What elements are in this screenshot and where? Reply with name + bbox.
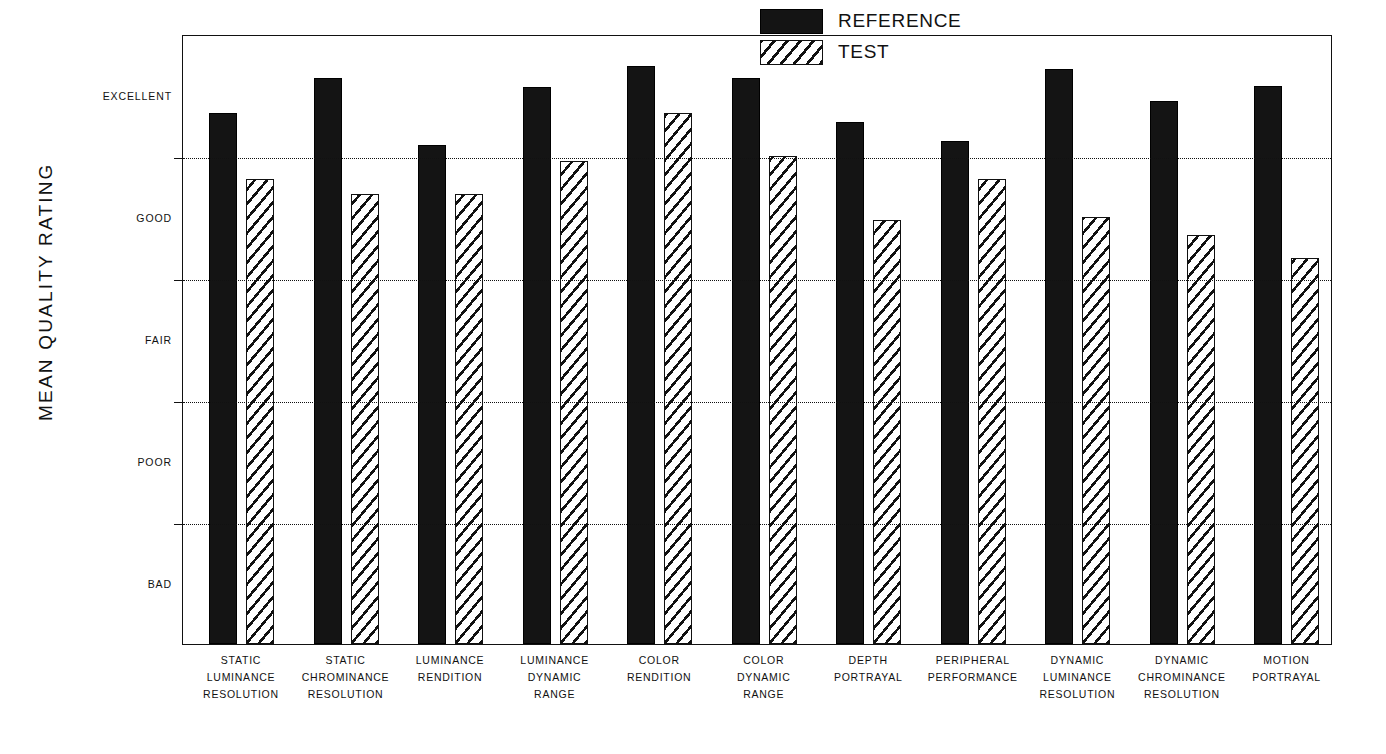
x-axis-label-line: RANGE bbox=[493, 686, 617, 703]
y-axis-label-fair: FAIR bbox=[60, 334, 172, 346]
bar-group bbox=[1254, 36, 1333, 644]
y-axis-tick-labels: BADPOORFAIRGOODEXCELLENT bbox=[60, 35, 172, 645]
y-axis-label-poor: POOR bbox=[60, 456, 172, 468]
bar-group bbox=[836, 36, 915, 644]
bar-reference bbox=[1045, 69, 1073, 644]
y-axis-label-excellent: EXCELLENT bbox=[60, 90, 172, 102]
bar-group bbox=[523, 36, 602, 644]
gridline bbox=[183, 280, 1331, 281]
bar-test bbox=[1291, 258, 1319, 644]
y-axis-tick bbox=[174, 402, 184, 403]
bar-groups bbox=[183, 36, 1331, 644]
gridline bbox=[183, 524, 1331, 525]
x-axis-label-line: RESOLUTION bbox=[1120, 686, 1244, 703]
bar-test bbox=[1187, 235, 1215, 644]
bar-group bbox=[418, 36, 497, 644]
bar-group bbox=[1045, 36, 1124, 644]
bar-test bbox=[246, 179, 274, 644]
bar-test bbox=[769, 156, 797, 644]
bar-reference bbox=[209, 113, 237, 644]
gridline bbox=[183, 158, 1331, 159]
bar-group bbox=[627, 36, 706, 644]
gridline bbox=[183, 402, 1331, 403]
y-axis-label-bad: BAD bbox=[60, 578, 172, 590]
bar-group bbox=[314, 36, 393, 644]
bar-group bbox=[732, 36, 811, 644]
bar-reference bbox=[732, 78, 760, 644]
legend-label-reference: REFERENCE bbox=[838, 10, 961, 32]
chart-root: MEAN QUALITY RATING BADPOORFAIRGOODEXCEL… bbox=[0, 0, 1386, 754]
chart-legend: REFERENCE TEST bbox=[760, 8, 961, 70]
legend-swatch-reference-icon bbox=[760, 9, 823, 34]
bar-group bbox=[941, 36, 1020, 644]
x-axis-label-line: RESOLUTION bbox=[284, 686, 408, 703]
x-axis-label: MOTIONPORTRAYAL bbox=[1224, 652, 1348, 686]
y-axis-tick bbox=[174, 158, 184, 159]
y-axis-label-good: GOOD bbox=[60, 212, 172, 224]
bar-reference bbox=[314, 78, 342, 644]
x-axis-label-line: MOTION bbox=[1224, 652, 1348, 669]
legend-item-reference: REFERENCE bbox=[760, 8, 961, 34]
bar-reference bbox=[1150, 101, 1178, 644]
bar-group bbox=[1150, 36, 1229, 644]
y-axis-tick bbox=[174, 524, 184, 525]
bar-group bbox=[209, 36, 288, 644]
bar-reference bbox=[523, 87, 551, 644]
bar-test bbox=[873, 220, 901, 644]
bar-test bbox=[351, 194, 379, 644]
y-axis-tick bbox=[174, 280, 184, 281]
bar-reference bbox=[941, 141, 969, 644]
bar-test bbox=[455, 194, 483, 644]
x-axis-label-line: PORTRAYAL bbox=[1224, 669, 1348, 686]
legend-swatch-test-icon bbox=[760, 40, 823, 65]
bar-reference bbox=[418, 145, 446, 644]
bar-reference bbox=[1254, 86, 1282, 644]
bar-test bbox=[664, 113, 692, 644]
y-axis-title: MEAN QUALITY RATING bbox=[35, 201, 57, 421]
x-axis-label-line: RANGE bbox=[702, 686, 826, 703]
bar-test bbox=[978, 179, 1006, 644]
legend-item-test: TEST bbox=[760, 39, 961, 65]
bar-reference bbox=[836, 122, 864, 644]
bar-reference bbox=[627, 66, 655, 644]
bar-test bbox=[1082, 217, 1110, 644]
plot-area bbox=[182, 35, 1332, 645]
legend-label-test: TEST bbox=[838, 41, 889, 63]
x-axis-category-labels: STATICLUMINANCERESOLUTIONSTATICCHROMINAN… bbox=[182, 652, 1332, 752]
